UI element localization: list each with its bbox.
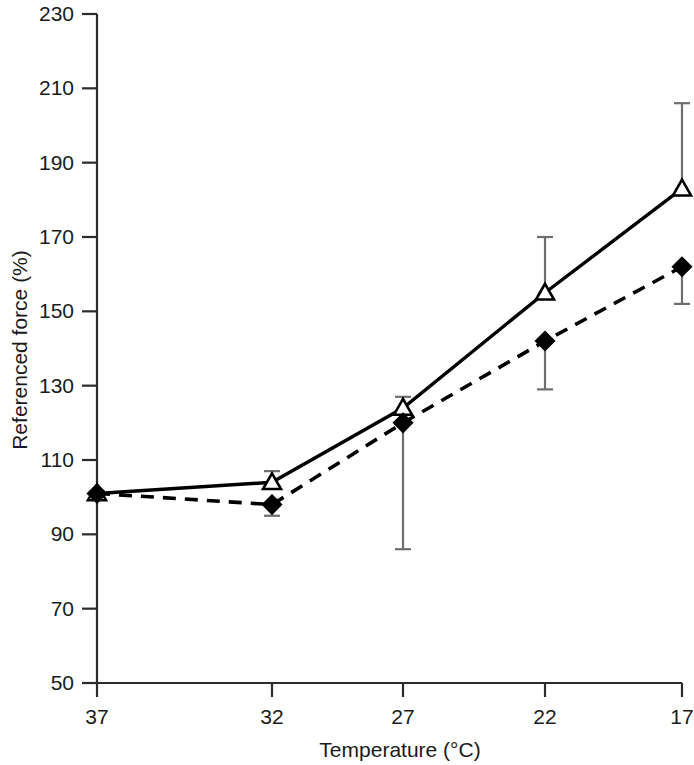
x-tick-label: 22 xyxy=(533,705,556,728)
y-tick-label: 110 xyxy=(41,448,74,471)
y-tick-label: 170 xyxy=(39,225,74,248)
y-tick-label: 50 xyxy=(51,671,74,694)
y-tick-label: 150 xyxy=(39,299,74,322)
y-tick-label: 130 xyxy=(39,374,74,397)
x-tick-label: 27 xyxy=(391,705,414,728)
x-tick-label: 37 xyxy=(85,705,108,728)
x-tick-label: 32 xyxy=(260,705,283,728)
x-axis-title: Temperature (°C) xyxy=(319,738,480,761)
y-tick-label: 70 xyxy=(51,597,74,620)
y-tick-label: 210 xyxy=(39,76,74,99)
line-chart: 507090110130150170190210230 3732272217 R… xyxy=(0,0,694,765)
x-tick-label: 17 xyxy=(670,705,693,728)
chart-background xyxy=(0,0,694,765)
chart-figure: 507090110130150170190210230 3732272217 R… xyxy=(0,0,694,765)
y-tick-label: 230 xyxy=(39,2,74,25)
y-tick-label: 90 xyxy=(51,522,74,545)
y-axis-title: Referenced force (%) xyxy=(8,250,31,450)
y-tick-label: 190 xyxy=(39,151,74,174)
